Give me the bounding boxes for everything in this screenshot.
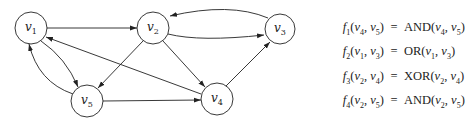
equation-lhs: f4(v2, v5) bbox=[318, 91, 384, 115]
equals-sign: = bbox=[384, 91, 404, 115]
edge-v3-v2 bbox=[170, 9, 268, 18]
equation-lhs: f2(v1, v3) bbox=[318, 42, 384, 66]
equals-sign: = bbox=[384, 115, 404, 118]
edge-v4-v1 bbox=[46, 37, 201, 94]
edge-v2-v3 bbox=[168, 34, 264, 38]
boolean-network-graph: v1 v2 v3 v4 v5 bbox=[0, 0, 300, 118]
equation-rhs: AND(v4, v5) bbox=[404, 18, 465, 42]
equation-rhs: AND(v2, v5) bbox=[404, 91, 465, 115]
equation-rhs: OR(v1, v3) bbox=[404, 42, 455, 66]
equation-lhs: f3(v2, v4) bbox=[318, 67, 384, 91]
equation-rhs: XOR(v2, v4) bbox=[404, 67, 464, 91]
equals-sign: = bbox=[384, 18, 404, 42]
edge-v2-v4 bbox=[163, 41, 205, 87]
equation-row-f3: f3(v2, v4) = XOR(v2, v4) bbox=[318, 67, 465, 91]
equation-row-f2: f2(v1, v3) = OR(v1, v3) bbox=[318, 42, 465, 66]
equation-row-f1: f1(v4, v5) = AND(v4, v5) bbox=[318, 18, 465, 42]
edge-v4-v3 bbox=[226, 42, 270, 86]
equation-lhs: f1(v4, v5) bbox=[318, 18, 384, 42]
equals-sign: = bbox=[384, 67, 404, 91]
edge-v5-v1 bbox=[29, 44, 73, 94]
edge-v2-v5 bbox=[98, 41, 143, 88]
edge-v1-v5 bbox=[41, 41, 78, 87]
equation-rhs: AND(v1, v2) bbox=[404, 115, 465, 118]
edge-v5-v4 bbox=[103, 100, 201, 101]
equation-row-f5: f5(v1, v2) = AND(v1, v2) bbox=[318, 115, 465, 118]
equals-sign: = bbox=[384, 42, 404, 66]
equation-row-f4: f4(v2, v5) = AND(v2, v5) bbox=[318, 91, 465, 115]
equation-lhs: f5(v1, v2) bbox=[318, 115, 384, 118]
boolean-functions-list: f1(v4, v5) = AND(v4, v5) f2(v1, v3) = OR… bbox=[318, 18, 465, 118]
